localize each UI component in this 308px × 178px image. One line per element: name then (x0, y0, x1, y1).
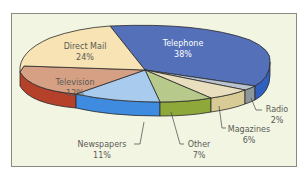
label-newspapers: Newspapers 11% (72, 139, 132, 161)
label-magazines: Magazines 6% (224, 124, 274, 146)
leader-newspapers (134, 122, 144, 144)
label-magazines-pct: 6% (224, 135, 274, 146)
label-telephone-pct: 38% (158, 49, 208, 60)
pie-chart (0, 0, 308, 178)
label-television-pct: 12% (50, 88, 100, 99)
label-radio-name: Radio (262, 104, 292, 115)
label-television: Television 12% (50, 77, 100, 99)
label-telephone: Telephone 38% (158, 38, 208, 60)
label-television-name: Television (50, 77, 100, 88)
label-other: Other 7% (182, 139, 216, 161)
label-newspapers-pct: 11% (72, 150, 132, 161)
label-other-name: Other (182, 139, 216, 150)
label-radio: Radio 2% (262, 104, 292, 126)
label-telephone-name: Telephone (158, 38, 208, 49)
label-radio-pct: 2% (262, 115, 292, 126)
label-other-pct: 7% (182, 150, 216, 161)
label-direct-mail: Direct Mail 24% (58, 41, 112, 63)
label-direct-mail-name: Direct Mail (58, 41, 112, 52)
label-direct-mail-pct: 24% (58, 52, 112, 63)
label-newspapers-name: Newspapers (72, 139, 132, 150)
